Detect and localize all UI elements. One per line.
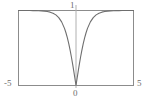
x-axis-max-label: 5	[137, 79, 142, 88]
x-axis-min-label: -5	[4, 79, 12, 88]
plot-figure: 1 -5 5 0	[0, 0, 150, 102]
y-axis-max-label: 1	[70, 1, 75, 10]
x-axis-origin-label: 0	[73, 89, 78, 98]
plot-canvas	[0, 0, 150, 102]
